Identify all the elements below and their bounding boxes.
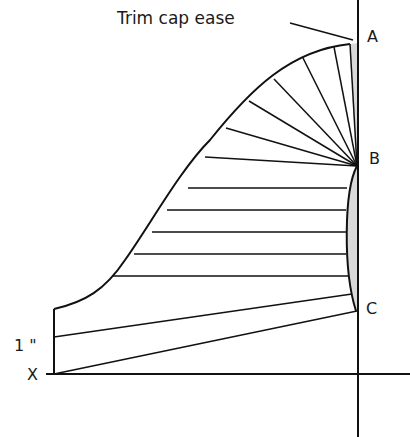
point-x-label: X [27,367,38,383]
diagram-canvas [0,0,410,437]
point-c-label: C [366,301,377,317]
point-b-label: B [369,151,380,167]
upper-slant-line [54,294,352,337]
horizontal-slash-lines [113,188,348,276]
one-inch-label: 1 " [14,338,37,354]
trim-cap-ease-label: Trim cap ease [117,10,235,27]
point-a-label: A [367,29,378,45]
sleeve-cap-curve [54,44,350,309]
lower-ease-lens [347,166,358,311]
lower-slant-line [54,311,357,374]
radiating-slash-lines [205,44,357,166]
sleeve-cap-diagram: Trim cap ease A B C 1 " X [0,0,410,437]
callout-leader-line [290,23,353,40]
